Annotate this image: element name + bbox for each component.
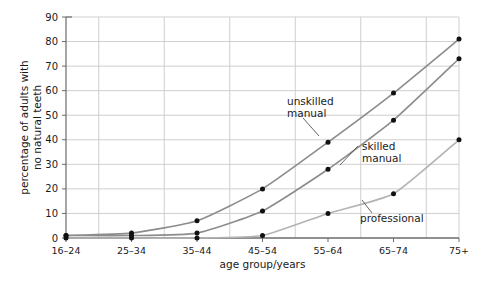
x-axis-title: age group/years [220,258,306,270]
annotation-professional: professional [360,212,424,224]
y-tick-label: 70 [45,61,58,72]
x-category-label: 25–34 [117,245,146,256]
x-category-label: 35–44 [183,245,212,256]
data-point [391,191,396,196]
data-point [129,236,134,241]
data-point [195,236,200,241]
annotation-label-line2: manual [362,152,401,164]
annotation-label-line1: unskilled [287,95,334,107]
data-point [391,91,396,96]
data-point [457,56,462,61]
data-point [260,186,265,191]
data-point [195,218,200,223]
data-point [391,118,396,123]
line-chart: 0102030405060708090 16–2425–3435–4445–54… [0,0,477,281]
data-point [260,233,265,238]
annotation-skilled-manual: skilledmanual [362,140,401,164]
x-category-label: 45–54 [248,245,277,256]
chart-background [0,0,477,281]
data-point [260,208,265,213]
data-point [195,231,200,236]
data-point [326,211,331,216]
y-tick-label: 0 [52,233,58,244]
y-tick-label: 80 [45,36,58,47]
data-point [326,140,331,145]
annotation-label-line1: professional [360,212,424,224]
y-tick-label: 30 [45,159,58,170]
x-category-label: 65–74 [379,245,408,256]
y-tick-label: 60 [45,85,58,96]
x-category-label: 75+ [449,245,469,256]
y-axis-title-line: no natural teeth [31,85,43,170]
y-tick-label: 20 [45,183,58,194]
data-point [326,167,331,172]
y-tick-label: 40 [45,134,58,145]
y-tick-label: 90 [45,12,58,23]
data-point [457,137,462,142]
annotation-label-line2: manual [287,107,326,119]
data-point [64,236,69,241]
y-axis-title-line: percentage of adults with [18,60,30,194]
y-tick-label: 10 [45,208,58,219]
x-category-label: 16–24 [52,245,81,256]
x-category-label: 55–64 [314,245,343,256]
annotation-label-line1: skilled [362,140,395,152]
chart-container: 0102030405060708090 16–2425–3435–4445–54… [0,0,477,281]
y-tick-label: 50 [45,110,58,121]
data-point [457,37,462,42]
